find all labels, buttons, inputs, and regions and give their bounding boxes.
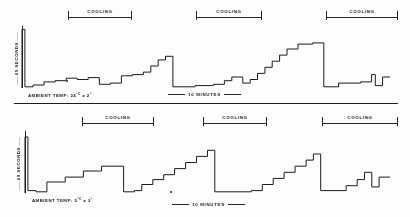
ambient-tolerance: ± 2	[82, 93, 89, 98]
x-scale-bar-lower: 10 MINUTES	[172, 202, 245, 207]
ambient-temp-text: AMBIENT TEMP:	[32, 198, 73, 203]
ambient-temp-upper: AMBIENT TEMP: 24°C ± 2°	[28, 92, 91, 98]
scale-arm-right	[228, 204, 245, 205]
ambient-tolerance-unit: °	[90, 92, 92, 96]
x-scale-bar-upper: 10 MINUTES	[168, 92, 241, 97]
scan-speck	[66, 80, 68, 82]
panel-divider-upper	[14, 103, 398, 104]
recorder-chart-figure: COOLING COOLING COOLING —— 60 SECONDS ——	[0, 0, 410, 217]
trace-upper	[0, 0, 410, 107]
ambient-temp-lower: AMBIENT TEMP: 5°C ± 2°	[32, 197, 92, 203]
trace-path-upper	[22, 29, 390, 88]
ambient-degree-unit: °C	[77, 197, 81, 201]
scan-speck	[170, 191, 172, 193]
ambient-tolerance: ± 2	[83, 198, 90, 203]
x-scale-label: 10 MINUTES	[192, 202, 225, 207]
scale-arm-left	[168, 94, 185, 95]
trace-path-lower	[25, 137, 390, 193]
scale-arm-left	[172, 204, 189, 205]
chart-panel-upper: COOLING COOLING COOLING —— 60 SECONDS ——	[0, 0, 410, 107]
scale-arm-right	[224, 94, 241, 95]
ambient-temp-text: AMBIENT TEMP:	[28, 93, 69, 98]
ambient-tolerance-unit: °	[91, 197, 93, 201]
ambient-degree-unit: °C	[76, 92, 80, 96]
x-scale-label: 10 MINUTES	[188, 92, 221, 97]
chart-panel-lower: COOLING COOLING COOLING —— 60 SECONDS ——	[0, 107, 410, 217]
